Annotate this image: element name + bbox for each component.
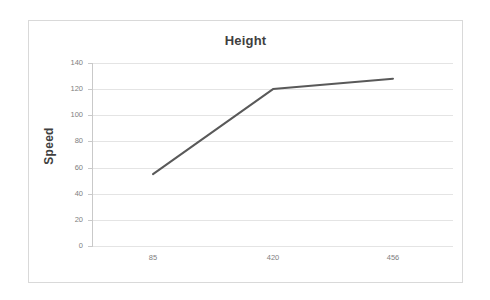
y-tick-label: 120 [43, 84, 83, 93]
x-tick-label: 456 [363, 253, 423, 262]
y-tick-mark [88, 194, 92, 195]
chart-card: Height Speed 020406080100120140 85420456 [28, 20, 463, 283]
gridline [93, 246, 453, 247]
y-tick-mark [88, 89, 92, 90]
y-tick-mark [88, 141, 92, 142]
x-tick-label: 420 [243, 253, 303, 262]
plot-area [93, 63, 453, 246]
y-tick-label: 60 [43, 163, 83, 172]
chart-title: Height [29, 33, 462, 48]
y-tick-mark [88, 115, 92, 116]
y-tick-mark [88, 220, 92, 221]
y-tick-label: 20 [43, 215, 83, 224]
y-tick-label: 100 [43, 110, 83, 119]
y-tick-label: 80 [43, 136, 83, 145]
y-tick-mark [88, 63, 92, 64]
series-polyline [153, 79, 393, 174]
x-tick-label: 85 [123, 253, 183, 262]
y-tick-mark [88, 246, 92, 247]
y-tick-label: 40 [43, 189, 83, 198]
y-tick-mark [88, 168, 92, 169]
y-tick-label: 140 [43, 58, 83, 67]
series-line-chart [93, 63, 453, 246]
y-tick-label: 0 [43, 241, 83, 250]
